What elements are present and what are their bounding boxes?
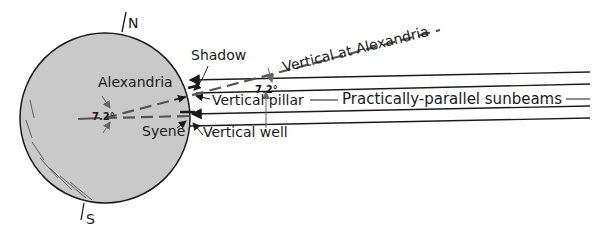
vertical-well-label: Vertical well	[203, 124, 288, 140]
shadow-label: Shadow	[191, 47, 246, 63]
pillar-pointer	[196, 96, 210, 99]
well-pointer	[193, 123, 203, 135]
sunbeams-label: Practically-parallel sunbeams	[342, 90, 562, 108]
syene-label: Syene	[142, 123, 185, 139]
south-label: S	[86, 211, 95, 227]
vertical-pillar-label: Vertical pillar	[212, 92, 304, 108]
diagram-canvas: N S 7.2° 7.2° Shadow Alexandria Syene Ve…	[0, 0, 613, 237]
shadow-pointer	[194, 66, 208, 90]
alexandria-label: Alexandria	[98, 74, 173, 90]
angle-center-label: 7.2°	[92, 111, 115, 122]
north-label: N	[128, 15, 138, 31]
eratosthenes-diagram: N S 7.2° 7.2° Shadow Alexandria Syene Ve…	[0, 0, 613, 237]
vertical-at-alexandria-label: Vertical at Alexandria	[281, 23, 430, 75]
